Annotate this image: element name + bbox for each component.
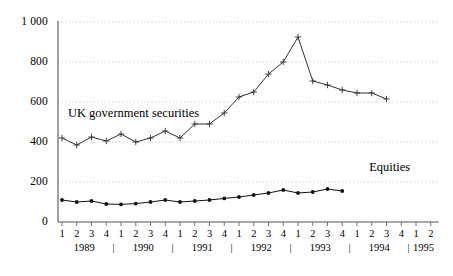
series-label-equities: Equities (369, 161, 410, 174)
x-quarter-label: 1 (232, 229, 246, 240)
data-point (339, 87, 345, 93)
data-point (311, 190, 315, 194)
x-quarter-label: 2 (424, 229, 438, 240)
x-quarter-label: 2 (70, 229, 84, 240)
x-year-label: 1991 (186, 243, 218, 254)
y-tick-label: 1 000 (2, 16, 48, 28)
data-point (340, 189, 344, 193)
data-point (178, 200, 182, 204)
data-point (383, 96, 389, 102)
x-quarter-label: 4 (335, 229, 349, 240)
x-quarter-label: 3 (203, 229, 217, 240)
data-point (208, 198, 212, 202)
x-year-separator: | (405, 243, 413, 254)
data-point (59, 135, 65, 141)
y-tick-label: 200 (2, 176, 48, 188)
x-quarter-label: 2 (188, 229, 202, 240)
x-quarter-label: 2 (129, 229, 143, 240)
y-tick-label: 600 (2, 96, 48, 108)
x-quarter-label: 1 (114, 229, 128, 240)
x-quarter-label: 4 (217, 229, 231, 240)
data-point (281, 188, 285, 192)
data-point (354, 90, 360, 96)
data-point (90, 199, 94, 203)
data-point (134, 202, 138, 206)
data-point (133, 139, 139, 145)
x-quarter-label: 1 (173, 229, 187, 240)
y-tick-label: 400 (2, 136, 48, 148)
data-point (60, 198, 64, 202)
x-quarter-label: 3 (380, 229, 394, 240)
x-year-separator: | (110, 243, 118, 254)
x-year-label: 1990 (127, 243, 159, 254)
x-quarter-label: 4 (394, 229, 408, 240)
data-point (237, 195, 241, 199)
x-quarter-label: 2 (247, 229, 261, 240)
x-quarter-label: 1 (55, 229, 69, 240)
data-point (324, 82, 330, 88)
x-year-separator: | (287, 243, 295, 254)
x-year-separator: | (228, 243, 236, 254)
data-point (104, 202, 108, 206)
x-quarter-label: 4 (99, 229, 113, 240)
x-quarter-label: 1 (291, 229, 305, 240)
y-tick-label: 0 (2, 216, 48, 228)
data-point (75, 200, 79, 204)
x-quarter-label: 3 (85, 229, 99, 240)
x-year-separator: | (346, 243, 354, 254)
data-point (267, 191, 271, 195)
data-point (119, 203, 123, 207)
x-year-label: 1994 (363, 243, 395, 254)
data-point (252, 193, 256, 197)
series-line-equities (62, 189, 342, 204)
x-axis-ticks (62, 222, 431, 226)
x-quarter-label: 1 (350, 229, 364, 240)
data-point (326, 187, 330, 191)
data-point (147, 135, 153, 141)
x-year-label: 1992 (245, 243, 277, 254)
x-year-separator: | (169, 243, 177, 254)
x-year-label: 1993 (304, 243, 336, 254)
series-line-gov-securities (62, 37, 387, 145)
data-point (369, 90, 375, 96)
data-point (296, 191, 300, 195)
data-point (222, 197, 226, 201)
x-quarter-label: 4 (276, 229, 290, 240)
x-quarter-label: 2 (306, 229, 320, 240)
data-point (163, 198, 167, 202)
data-point (88, 134, 94, 140)
axis-lines (58, 21, 439, 222)
data-point (162, 128, 168, 134)
data-point (310, 78, 316, 84)
x-quarter-label: 3 (321, 229, 335, 240)
data-point (103, 138, 109, 144)
data-point (118, 131, 124, 137)
x-quarter-label: 3 (144, 229, 158, 240)
x-year-label: 1989 (68, 243, 100, 254)
series-label-gov-securities: UK government securities (68, 107, 199, 120)
chart-container: 02004006008001 000 123412341234123412341… (0, 0, 453, 276)
gridlines (58, 22, 439, 182)
x-quarter-label: 3 (262, 229, 276, 240)
data-point (193, 199, 197, 203)
data-point (295, 34, 301, 40)
data-point (74, 142, 80, 148)
y-tick-label: 800 (2, 56, 48, 68)
x-quarter-label: 2 (365, 229, 379, 240)
x-quarter-label: 4 (158, 229, 172, 240)
x-quarter-label: 1 (409, 229, 423, 240)
data-point (149, 200, 153, 204)
